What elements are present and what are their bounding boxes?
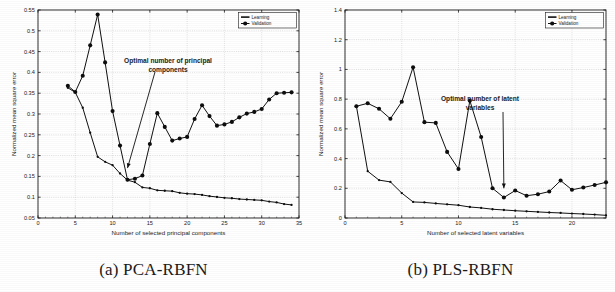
data-point-learning [367,170,369,172]
data-point-validation [96,13,100,17]
data-point-learning [283,203,285,205]
data-point-learning [89,132,91,134]
x-axis-title: Number of selected latent variables [427,229,524,236]
data-point-learning [582,213,584,215]
y-tick-label: 0.05 [24,215,35,221]
chart-pls-rbfn: 00.20.40.60.811.21.405101520Number of se… [307,0,614,248]
data-point-validation [125,178,129,182]
x-tick-label: 30 [259,220,265,226]
data-point-learning [186,193,188,195]
data-point-learning [412,201,414,203]
annotation-arrow-head [127,163,131,168]
panel-pls-rbfn: 00.20.40.60.811.21.405101520Number of se… [307,0,614,248]
data-point-learning [223,197,225,199]
data-point-learning [208,195,210,197]
data-point-validation [559,179,563,183]
data-point-validation [88,43,92,47]
x-axis-title: Number of selected principal components [112,229,226,236]
data-point-validation [275,91,279,95]
data-point-learning [525,210,527,212]
data-point-validation [445,150,449,154]
annotation-line-1: Optimal number of principal [124,57,212,65]
y-tick-label: 1.4 [334,7,342,13]
data-point-learning [275,201,277,203]
data-point-learning [238,198,240,200]
data-point-validation [604,180,608,184]
data-point-learning [514,210,516,212]
y-tick-label: 0.6 [334,126,342,132]
data-point-validation [366,101,370,105]
data-point-validation [289,90,293,94]
data-point-validation [479,135,483,139]
data-point-validation [103,60,107,64]
data-point-validation [377,107,381,111]
data-point-learning [193,193,195,195]
data-point-learning [216,196,218,198]
data-point-learning [261,199,263,201]
data-point-learning [253,199,255,201]
data-point-validation [193,117,197,121]
y-tick-label: 0.55 [24,7,35,13]
data-point-validation [422,120,426,124]
figure-container: 0.050.10.150.20.250.30.350.40.450.50.550… [0,0,615,292]
data-point-validation [388,117,392,121]
data-point-validation [267,97,271,101]
data-point-validation [411,65,415,69]
data-point-learning [82,107,84,109]
annotation-line-2: variables [466,104,495,111]
data-point-learning [134,181,136,183]
data-point-learning [594,213,596,215]
data-point-learning [104,161,106,163]
data-point-learning [179,192,181,194]
y-tick-label: 0.1 [27,194,35,200]
caption-pca-rbfn: (a) PCA-RBFN [0,248,307,292]
legend-label-validation: Validation [252,21,272,26]
data-point-validation [536,192,540,196]
series-line-learning [68,88,292,205]
data-point-learning [423,201,425,203]
y-axis-title: Normalized mean square error [317,72,324,156]
y-tick-label: 0.4 [27,69,35,75]
data-point-validation [547,190,551,194]
series-line-validation [68,15,292,180]
legend-label-learning: Learning [252,15,270,20]
data-point-validation [73,90,77,94]
y-tick-label: 0.15 [24,173,35,179]
annotation-line-2: components [148,66,188,74]
data-point-learning [480,207,482,209]
data-point-validation [118,144,122,148]
annotation-arrow-line [127,72,155,168]
data-point-learning [548,211,550,213]
data-point-validation [581,185,585,189]
series-line-learning [356,106,606,216]
annotation-line-1: Optimal number of latent [441,95,520,103]
data-point-validation [148,142,152,146]
data-point-validation [434,121,438,125]
data-point-validation [525,194,529,198]
data-point-validation [230,120,234,124]
data-point-validation [178,136,182,140]
data-point-learning [246,198,248,200]
data-point-learning [435,202,437,204]
data-point-learning [201,194,203,196]
x-tick-label: 20 [569,220,575,226]
annotation-arrow-head [502,183,506,188]
x-tick-label: 0 [36,220,39,226]
legend-marker-validation [550,21,554,25]
data-point-learning [149,187,151,189]
data-point-learning [119,172,121,174]
panel-pca-rbfn: 0.050.10.150.20.250.30.350.40.450.50.550… [0,0,307,248]
caption-pls-rbfn: (b) PLS-RBFN [307,248,614,292]
data-point-validation [490,186,494,190]
data-point-validation [245,112,249,116]
data-point-learning [231,197,233,199]
data-point-validation [170,139,174,143]
data-point-learning [141,186,143,188]
y-tick-label: 0.5 [27,28,35,34]
data-point-learning [97,156,99,158]
series-line-validation [356,67,606,197]
y-tick-label: 1.2 [334,37,342,43]
x-tick-label: 10 [109,220,115,226]
legend-label-learning: Learning [559,15,577,20]
data-point-validation [570,188,574,192]
